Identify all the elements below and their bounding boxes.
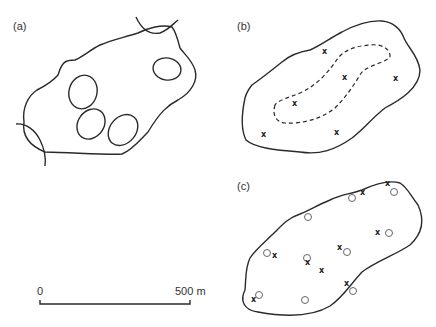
circle-marker	[302, 297, 309, 304]
x-marker: x	[375, 229, 380, 237]
x-marker: x	[360, 189, 365, 197]
circle-marker	[264, 250, 271, 257]
panel-c-figure	[243, 182, 422, 315]
circle-marker	[305, 214, 312, 221]
panel-b-figure	[242, 21, 420, 153]
x-marker: x	[251, 296, 256, 304]
x-marker: x	[305, 259, 310, 267]
panel-b-label: (b)	[237, 20, 250, 32]
x-marker: x	[261, 131, 266, 139]
panel-c-circle-markers	[256, 189, 398, 304]
scale-bar-line	[40, 300, 190, 304]
x-marker: x	[337, 244, 342, 252]
x-marker: x	[322, 48, 327, 56]
x-marker: x	[292, 100, 297, 108]
panel-a-outer-boundary	[24, 26, 196, 154]
x-marker: x	[385, 180, 390, 188]
x-marker: x	[393, 75, 398, 83]
x-marker: x	[344, 280, 349, 288]
diagram-canvas	[0, 0, 436, 327]
panel-a-inner-ellipse-3	[71, 103, 111, 144]
panel-a-inner-ellipse-2	[151, 56, 182, 83]
circle-marker	[350, 288, 357, 295]
panel-c-label: (c)	[237, 180, 250, 192]
panel-a-figure	[16, 17, 196, 166]
circle-marker	[349, 195, 356, 202]
panel-c-outer-boundary	[243, 182, 422, 315]
x-marker: x	[272, 252, 277, 260]
panel-a-inner-ellipse-1	[65, 72, 101, 112]
panel-b-outer-boundary	[242, 21, 420, 153]
scale-start-label: 0	[37, 285, 43, 297]
circle-marker	[256, 292, 263, 299]
scale-bar	[40, 300, 190, 304]
circle-marker	[391, 189, 398, 196]
panel-a-inner-ellipse-4	[102, 109, 144, 152]
x-marker: x	[319, 267, 324, 275]
x-marker: x	[334, 129, 339, 137]
panel-a-intersecting-curve-left	[16, 124, 45, 166]
panel-a-label: (a)	[13, 20, 26, 32]
circle-marker	[386, 230, 393, 237]
circle-marker	[344, 249, 351, 256]
x-marker: x	[342, 74, 347, 82]
scale-end-label: 500 m	[175, 285, 206, 297]
